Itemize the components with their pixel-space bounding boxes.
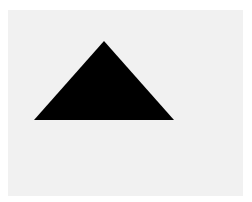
triangle-shape: [34, 41, 174, 120]
triangle-up-icon: [0, 0, 252, 202]
